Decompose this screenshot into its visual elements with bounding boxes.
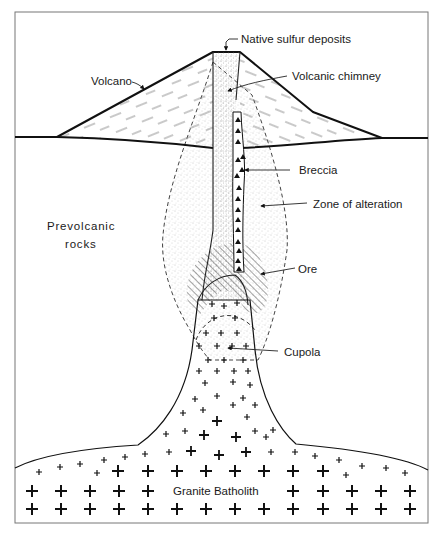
label-native-sulfur: Native sulfur deposits xyxy=(241,33,351,45)
volcano-right-flank xyxy=(240,52,382,148)
label-prevolcanic-1: Prevolcanic xyxy=(47,220,115,232)
label-prevolcanic-2: rocks xyxy=(65,238,96,250)
leader-volcano xyxy=(132,82,144,89)
leader-native-sulfur xyxy=(226,39,238,50)
label-ore: Ore xyxy=(298,263,317,275)
volcano-left-flank xyxy=(57,52,213,148)
label-breccia: Breccia xyxy=(299,164,338,176)
label-granite-batholith: Granite Batholith xyxy=(173,485,259,497)
label-cupola: Cupola xyxy=(284,346,321,358)
geology-cross-section-diagram: Native sulfur deposits Volcano Volcanic … xyxy=(0,0,440,534)
label-volcanic-chimney: Volcanic chimney xyxy=(292,70,381,82)
label-zone-of-alteration: Zone of alteration xyxy=(313,198,403,210)
breccia-pipe xyxy=(233,112,245,272)
granite-plus-signs xyxy=(26,300,416,515)
label-volcano: Volcano xyxy=(91,75,132,87)
